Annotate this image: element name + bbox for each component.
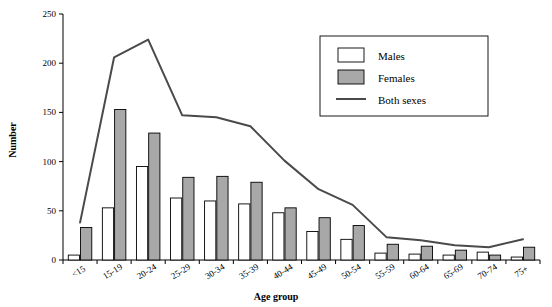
chart-container: 050100150200250 <1515-1920-2425-2930-343… — [0, 0, 552, 307]
bar-males — [511, 257, 522, 260]
bar-females — [421, 246, 432, 260]
x-axis-title: Age group — [254, 291, 299, 302]
y-tick-label: 50 — [47, 206, 57, 216]
bar-females — [183, 177, 194, 260]
bar-males — [239, 204, 250, 260]
bar-females — [387, 244, 398, 260]
bar-males — [443, 255, 454, 260]
bar-females — [489, 255, 500, 260]
y-tick-label: 0 — [52, 255, 57, 265]
bar-males — [409, 254, 420, 260]
bar-males — [477, 252, 488, 260]
bar-males — [205, 201, 216, 260]
bar-males — [171, 198, 182, 260]
bar-females — [251, 182, 262, 260]
y-tick-label: 200 — [43, 58, 57, 68]
legend-label: Both sexes — [378, 94, 426, 106]
chart-legend: MalesFemalesBoth sexes — [320, 36, 488, 116]
legend-swatch-males — [338, 48, 364, 62]
bar-males — [375, 253, 386, 260]
bar-females — [319, 218, 330, 260]
grouped-bar-line-chart: 050100150200250 <1515-1920-2425-2930-343… — [0, 0, 552, 307]
bar-females — [455, 250, 466, 260]
bar-females — [217, 176, 228, 260]
bar-males — [307, 231, 318, 260]
bar-males — [273, 213, 284, 260]
y-tick-label: 250 — [43, 9, 57, 19]
bar-females — [149, 133, 160, 260]
bar-males — [102, 208, 113, 260]
bar-males — [136, 167, 147, 260]
bar-males — [341, 239, 352, 260]
bar-females — [285, 208, 296, 260]
y-tick-label: 100 — [43, 157, 57, 167]
legend-label: Males — [378, 50, 405, 62]
bar-males — [68, 255, 79, 260]
bar-females — [523, 247, 534, 260]
legend-label: Females — [378, 72, 415, 84]
y-axis-title: Number — [7, 122, 18, 158]
legend-swatch-females — [338, 70, 364, 84]
bar-females — [81, 228, 92, 260]
bar-females — [353, 226, 364, 260]
y-tick-label: 150 — [43, 107, 57, 117]
bar-females — [115, 109, 126, 260]
